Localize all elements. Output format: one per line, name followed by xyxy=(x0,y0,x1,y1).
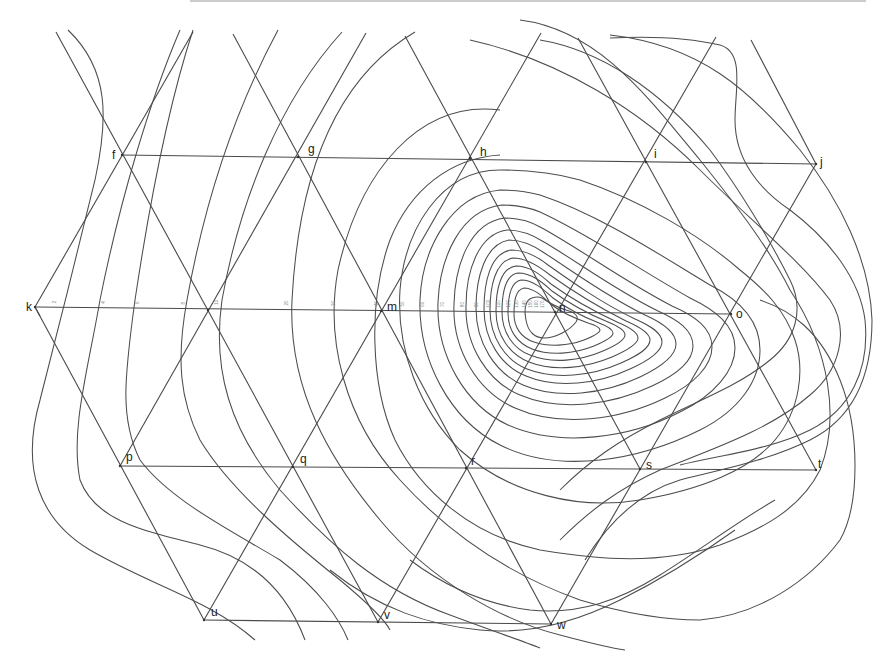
contour-value-labels: 2468102030405060708090100110120130140150… xyxy=(52,299,545,308)
contour-right-2 xyxy=(470,40,840,540)
node-point-n xyxy=(554,311,556,313)
node-label-i: i xyxy=(654,147,657,161)
line-k-p-u xyxy=(35,307,204,620)
node-point-i xyxy=(645,161,647,163)
line-top-j xyxy=(751,40,816,164)
contour-value-label: 170 xyxy=(540,300,545,308)
line-i-o-t xyxy=(578,38,816,470)
node-label-p: p xyxy=(126,450,133,464)
contour-value-label: 2 xyxy=(52,300,57,303)
node-label-t: t xyxy=(818,457,822,471)
node-point-g xyxy=(297,156,299,158)
node-point-p xyxy=(119,465,121,467)
node-label-w: w xyxy=(556,618,566,632)
node-point-m xyxy=(380,310,382,312)
lattice-horizontal-lines xyxy=(35,155,816,624)
line-v-r-n-i xyxy=(378,37,716,622)
contour-90 xyxy=(466,230,693,405)
node-point-h xyxy=(469,157,471,159)
contour-right-4 xyxy=(610,37,866,465)
contour-4 xyxy=(77,30,305,640)
contour-value-label: 160 xyxy=(534,300,539,308)
contour-value-label: 90 xyxy=(474,302,479,308)
line-f-l-q-v xyxy=(56,32,378,622)
node-label-u: u xyxy=(211,605,218,619)
line-k-f xyxy=(35,32,193,307)
contour-value-label: 50 xyxy=(400,301,405,307)
lattice-falling-lines xyxy=(35,32,816,624)
node-point-s xyxy=(639,468,641,470)
contour-right-1 xyxy=(540,40,797,490)
node-point-o xyxy=(730,313,732,315)
node-label-h: h xyxy=(480,145,487,159)
node-point-r xyxy=(465,467,467,469)
contour-lines xyxy=(32,20,872,650)
contour-60 xyxy=(420,190,760,461)
node-point-f xyxy=(121,154,123,156)
node-label-v: v xyxy=(384,608,390,622)
node-label-f: f xyxy=(112,148,116,162)
lattice-rising-lines xyxy=(35,32,816,624)
node-label-g: g xyxy=(308,142,315,156)
contour-8 xyxy=(181,30,390,630)
node-label-r: r xyxy=(471,454,475,468)
node-label-n: n xyxy=(559,301,566,315)
contour-6 xyxy=(126,30,348,640)
line-w-s-o-j xyxy=(551,164,816,624)
contour-value-label: 30 xyxy=(331,300,336,306)
contour-70 xyxy=(438,205,735,438)
node-point-l xyxy=(207,309,209,311)
node-point-k xyxy=(34,306,36,308)
contour-10 xyxy=(219,32,540,648)
line-h-n-s xyxy=(405,36,640,469)
contour-value-label: 130 xyxy=(514,300,519,308)
contour-value-label: 4 xyxy=(101,301,106,304)
contour-value-label: 40 xyxy=(374,301,379,307)
contour-lower-1 xyxy=(410,500,775,611)
contour-value-label: 80 xyxy=(460,302,465,308)
node-label-q: q xyxy=(300,452,307,466)
node-label-o: o xyxy=(736,307,743,321)
contour-value-label: 110 xyxy=(496,300,501,308)
contour-value-label: 150 xyxy=(528,300,533,308)
contour-lattice-diagram: 2468102030405060708090100110120130140150… xyxy=(0,0,890,660)
node-point-w xyxy=(550,623,552,625)
contour-right-3 xyxy=(585,35,872,560)
contour-100 xyxy=(476,240,676,394)
contour-value-label: 6 xyxy=(135,301,140,304)
node-point-j xyxy=(815,163,817,165)
node-label-k: k xyxy=(26,300,33,314)
contour-value-label: 100 xyxy=(486,299,491,307)
node-point-t xyxy=(815,469,817,471)
node-label-m: m xyxy=(387,300,397,314)
contour-value-label: 60 xyxy=(420,301,425,307)
contour-value-label: 20 xyxy=(284,300,289,306)
line-u-q-m-h xyxy=(204,33,541,620)
contour-value-label: 120 xyxy=(506,300,511,308)
contour-value-label: 10 xyxy=(214,299,219,305)
contour-value-label: 70 xyxy=(440,301,445,307)
node-point-u xyxy=(203,619,205,621)
node-label-j: j xyxy=(819,155,823,169)
contour-50 xyxy=(400,170,800,503)
node-point-v xyxy=(377,621,379,623)
node-point-q xyxy=(292,466,294,468)
contour-value-label: 140 xyxy=(522,300,527,308)
contour-value-label: 8 xyxy=(181,301,186,304)
node-label-s: s xyxy=(646,458,652,472)
